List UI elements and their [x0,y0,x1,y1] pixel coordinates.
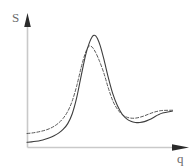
x-axis-label: q [177,152,184,165]
series-solid-curve [27,35,173,142]
y-axis-arrow-icon [24,13,31,27]
x-axis-arrow-icon [172,144,189,151]
y-axis-label: S [12,11,19,24]
chart-figure: S q [0,0,193,168]
chart-plot-area [0,0,193,168]
series-dashed-curve [27,46,173,134]
